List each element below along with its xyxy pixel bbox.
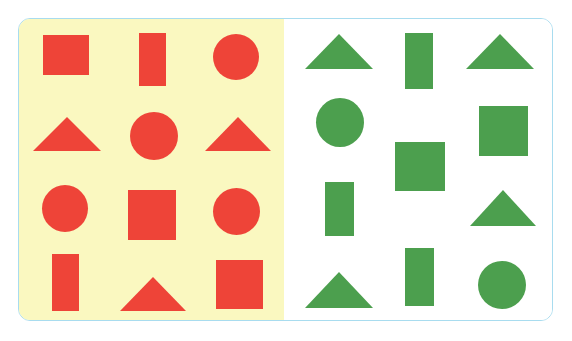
- green-triangle-2: [466, 34, 534, 69]
- green-rect-3: [405, 248, 434, 306]
- red-triangle-2-body: [205, 117, 271, 151]
- red-circle-3: [42, 185, 88, 232]
- shape-card: [18, 18, 553, 321]
- green-rect-2: [325, 182, 354, 236]
- green-square-1: [395, 142, 445, 191]
- red-circle-2: [130, 112, 178, 160]
- red-square-1: [43, 35, 89, 75]
- red-triangle-3-body: [120, 277, 186, 311]
- green-triangle-4: [305, 272, 373, 308]
- green-triangle-1-body: [305, 34, 373, 69]
- left-panel-red: [19, 19, 284, 320]
- red-square-2: [128, 190, 176, 240]
- red-rect-2: [52, 254, 79, 311]
- red-triangle-1-body: [33, 117, 101, 151]
- red-triangle-2: [205, 117, 271, 151]
- green-triangle-2-body: [466, 34, 534, 69]
- red-square-3: [216, 260, 263, 309]
- figure-canvas: [0, 0, 572, 341]
- green-square-2: [479, 106, 528, 156]
- green-rect-1: [405, 33, 433, 89]
- green-circle-2: [478, 261, 526, 309]
- green-triangle-4-body: [305, 272, 373, 308]
- right-panel-green: [284, 19, 552, 320]
- red-circle-4: [213, 188, 260, 235]
- green-triangle-3-body: [470, 190, 536, 226]
- green-triangle-3: [470, 190, 536, 226]
- red-triangle-3: [120, 277, 186, 311]
- red-circle-1: [213, 34, 259, 80]
- red-rect-1: [139, 33, 166, 86]
- red-triangle-1: [33, 117, 101, 151]
- green-circle-1: [316, 98, 364, 147]
- green-triangle-1: [305, 34, 373, 69]
